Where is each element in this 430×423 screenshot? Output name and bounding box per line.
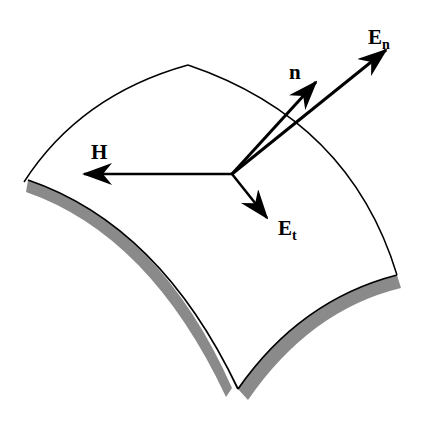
label-En-sub: n (382, 37, 390, 52)
vector-En (232, 50, 386, 174)
vector-Et (232, 174, 267, 218)
surface-diagram (0, 0, 430, 423)
surface-thickness-right (238, 275, 401, 400)
label-Et-sub: t (292, 228, 297, 243)
label-Et: Et (278, 218, 297, 243)
surface-top-right-edge (188, 65, 397, 275)
diagram-canvas: H n En Et (0, 0, 430, 423)
surface-thickness-left (26, 180, 232, 397)
label-H-text: H (91, 140, 107, 164)
label-En: En (368, 27, 390, 52)
label-n-text: n (289, 60, 301, 84)
label-Et-main: E (278, 216, 292, 240)
label-En-main: E (368, 25, 382, 49)
label-H: H (91, 142, 107, 163)
label-n: n (289, 62, 301, 83)
surface-top-left-edge (24, 65, 188, 182)
